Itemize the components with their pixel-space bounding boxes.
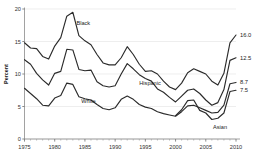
end-value-labels-group: 16.012.58.77.5 <box>240 32 251 93</box>
x-tick-label-2000: 2000 <box>169 144 181 150</box>
end-value-label-hispanic: 12.5 <box>240 55 251 61</box>
gridlines-group <box>25 9 237 139</box>
chart-canvas: 05101520 1975198019851990199520002005201… <box>0 0 265 165</box>
y-tick-label-0: 0 <box>18 136 21 142</box>
y-tick-label-10: 10 <box>15 71 21 77</box>
y-tick-label-20: 20 <box>15 6 21 12</box>
y-tick-label-15: 15 <box>15 39 21 45</box>
x-tick-label-1995: 1995 <box>139 144 151 150</box>
y-tick-label-5: 5 <box>18 104 21 110</box>
end-value-label-black: 16.0 <box>240 32 251 38</box>
series-annotation-asian: Asian <box>213 124 227 130</box>
end-value-label-asian: 7.5 <box>240 87 248 93</box>
x-tick-label-1980: 1980 <box>48 144 60 150</box>
y-tick-labels-group: 05101520 <box>15 6 21 142</box>
x-tick-label-1990: 1990 <box>109 144 121 150</box>
series-lines-group <box>25 12 237 119</box>
unemployment-rate-line-chart: 05101520 1975198019851990199520002005201… <box>0 0 265 165</box>
series-annotation-black: Black <box>76 20 90 26</box>
end-value-label-white: 8.7 <box>240 79 248 85</box>
x-tick-labels-group: 19751980198519901995200020052010 <box>18 144 242 150</box>
series-annotations-group: BlackHispanicWhiteAsian <box>76 20 227 130</box>
series-line-black <box>25 12 237 89</box>
x-tick-label-2005: 2005 <box>200 144 212 150</box>
series-line-white <box>25 82 237 116</box>
y-axis-title: Percent <box>3 64 9 84</box>
x-tick-label-1975: 1975 <box>18 144 30 150</box>
series-annotation-white: White <box>81 98 95 104</box>
x-tick-label-1985: 1985 <box>79 144 91 150</box>
x-tick-label-2010: 2010 <box>230 144 242 150</box>
series-annotation-hispanic: Hispanic <box>139 80 161 86</box>
